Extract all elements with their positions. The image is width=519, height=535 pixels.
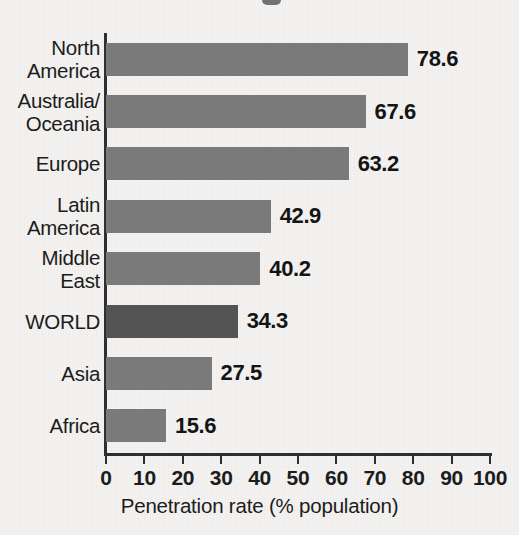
- bar-north-america[interactable]: [106, 43, 408, 76]
- x-axis-tick: [259, 455, 261, 464]
- x-axis-title: Penetration rate (% population): [0, 494, 519, 518]
- bar-value-label: 34.3: [247, 308, 288, 334]
- x-axis-tick-label: 70: [363, 466, 386, 490]
- x-axis-tick: [374, 455, 376, 464]
- x-axis-tick-label: 40: [248, 466, 271, 490]
- bar-latin-america[interactable]: [106, 200, 271, 233]
- x-axis-tick: [182, 455, 184, 464]
- bar-value-label: 42.9: [280, 203, 321, 229]
- category-label-asia: Asia: [0, 362, 100, 385]
- x-axis-tick-label: 10: [133, 466, 156, 490]
- category-label-world: WORLD: [0, 310, 100, 333]
- bar-row: 42.9: [106, 200, 490, 233]
- bar-chart-figure: North AmericaAustralia/ OceaniaEuropeLat…: [0, 0, 519, 535]
- bar-row: 40.2: [106, 252, 490, 285]
- x-axis-tick-label: 50: [287, 466, 310, 490]
- bar-row: 67.6: [106, 95, 490, 128]
- x-axis-tick-label: 30: [210, 466, 233, 490]
- plot-area: 78.667.663.242.940.234.327.515.6: [106, 33, 490, 452]
- category-label-africa: Africa: [0, 414, 100, 437]
- bar-australia-oceania[interactable]: [106, 95, 366, 128]
- x-axis-tick: [335, 455, 337, 464]
- bar-value-label: 78.6: [417, 46, 458, 72]
- x-axis-tick-label: 60: [325, 466, 348, 490]
- bar-row: 63.2: [106, 147, 490, 180]
- category-label-latin-america: Latin America: [0, 193, 100, 239]
- x-axis-tick-label: 80: [402, 466, 425, 490]
- bar-value-label: 40.2: [269, 256, 310, 282]
- bar-value-label: 63.2: [358, 151, 399, 177]
- bar-asia[interactable]: [106, 357, 212, 390]
- bar-row: 27.5: [106, 357, 490, 390]
- x-axis-tick-label: 20: [171, 466, 194, 490]
- category-label-australia-oceania: Australia/ Oceania: [0, 89, 100, 135]
- x-axis-tick: [105, 455, 107, 464]
- x-axis-tick: [143, 455, 145, 464]
- category-label-middle-east: Middle East: [0, 246, 100, 292]
- bar-row: 34.3: [106, 305, 490, 338]
- x-axis-tick: [451, 455, 453, 464]
- x-axis-tick: [412, 455, 414, 464]
- x-axis-tick: [220, 455, 222, 464]
- bar-row: 78.6: [106, 43, 490, 76]
- x-axis-tick-label: 0: [100, 466, 111, 490]
- bar-africa[interactable]: [106, 409, 166, 442]
- cropped-title-fragment: [262, 0, 281, 5]
- bar-value-label: 15.6: [175, 413, 216, 439]
- category-label-group: North AmericaAustralia/ OceaniaEuropeLat…: [0, 33, 100, 452]
- x-axis-tick-label: 90: [440, 466, 463, 490]
- x-axis-tick: [297, 455, 299, 464]
- bar-world[interactable]: [106, 305, 238, 338]
- x-axis-tick-label: 100: [473, 466, 507, 490]
- category-label-europe: Europe: [0, 152, 100, 175]
- bar-value-label: 67.6: [375, 99, 416, 125]
- bar-europe[interactable]: [106, 147, 349, 180]
- bar-middle-east[interactable]: [106, 252, 260, 285]
- bar-value-label: 27.5: [221, 360, 262, 386]
- bar-row: 15.6: [106, 409, 490, 442]
- category-label-north-america: North America: [0, 36, 100, 82]
- x-axis-tick: [489, 455, 491, 464]
